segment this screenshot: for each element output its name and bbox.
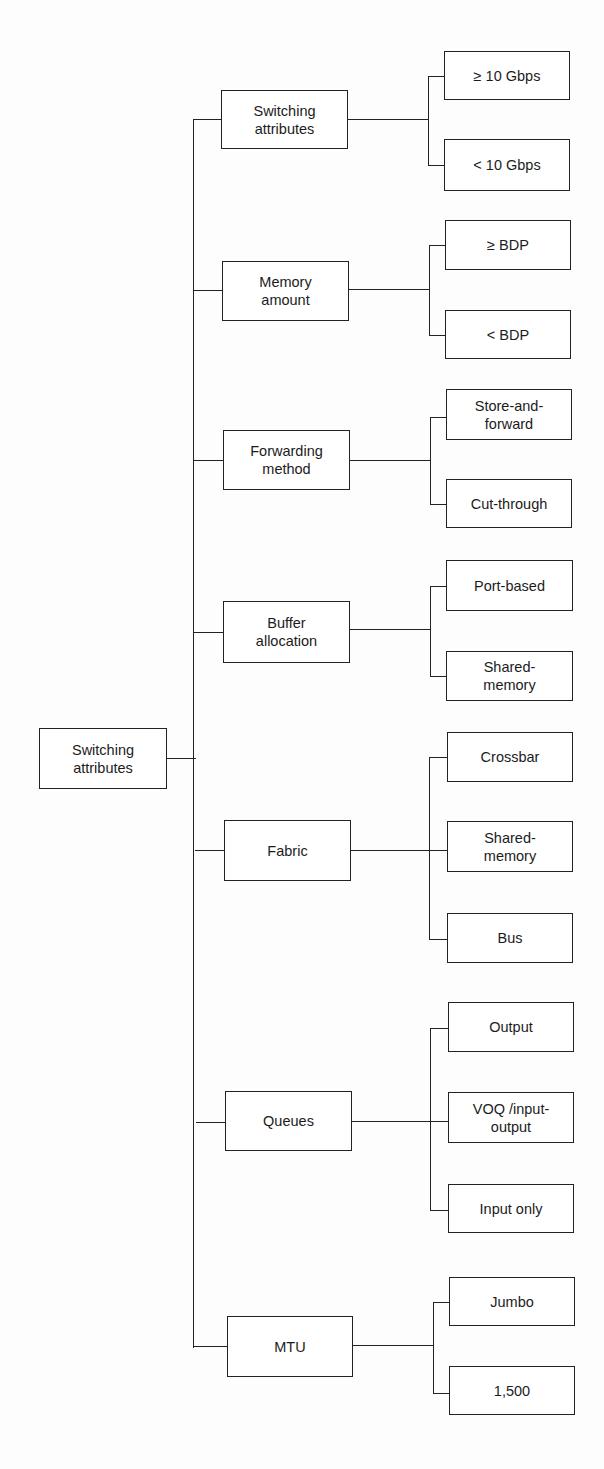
leaf-4-2-connector: [429, 939, 447, 940]
leaf-5-0-connector: [430, 1028, 448, 1029]
spine-to-branch-6: [193, 1346, 227, 1347]
spine-to-branch-2: [193, 460, 223, 461]
leaf-node-shared-memory-buffer: Shared- memory: [446, 651, 573, 701]
leaf-5-1-connector: [430, 1121, 448, 1122]
leaf-node-ge-bdp: ≥ BDP: [445, 220, 571, 270]
leaf-3-1-connector: [430, 676, 446, 677]
branch-6-connector: [353, 1345, 433, 1346]
branch-1-connector: [349, 289, 429, 290]
branch-node-forwarding-method: Forwarding method: [223, 430, 350, 490]
branch-node-memory-amount: Memory amount: [222, 261, 349, 321]
leaf-node-crossbar: Crossbar: [447, 732, 573, 782]
branch-6-bracket: [433, 1302, 434, 1393]
leaf-5-2-connector: [430, 1210, 448, 1211]
leaf-6-1-connector: [433, 1393, 449, 1394]
leaf-node-lt-10gbps: < 10 Gbps: [444, 139, 570, 191]
leaf-node-jumbo: Jumbo: [449, 1277, 575, 1326]
leaf-node-port-based: Port-based: [446, 560, 573, 611]
leaf-node-output: Output: [448, 1002, 574, 1052]
spine-to-branch-3: [194, 632, 223, 633]
branch-5-bracket: [430, 1028, 431, 1210]
leaf-node-input-only: Input only: [448, 1184, 574, 1233]
leaf-2-1-connector: [430, 504, 446, 505]
branch-0-connector: [348, 119, 428, 120]
leaf-2-0-connector: [430, 417, 446, 418]
branch-node-queues: Queues: [225, 1091, 352, 1151]
leaf-1-1-connector: [429, 335, 445, 336]
branch-0-bracket: [428, 76, 429, 165]
branch-3-connector: [350, 629, 430, 630]
spine-to-branch-0: [193, 119, 221, 120]
branch-1-bracket: [429, 245, 430, 335]
leaf-node-cut-through: Cut-through: [446, 479, 572, 528]
leaf-node-bus: Bus: [447, 913, 573, 963]
leaf-node-lt-bdp: < BDP: [445, 310, 571, 359]
leaf-node-1500: 1,500: [449, 1366, 575, 1415]
branch-2-connector: [350, 460, 430, 461]
leaf-0-0-connector: [428, 76, 444, 77]
branch-node-fabric: Fabric: [224, 820, 351, 881]
branch-node-buffer-allocation: Buffer allocation: [223, 601, 350, 663]
leaf-1-0-connector: [429, 245, 445, 246]
diagram-canvas: Switching attributes Switching attribute…: [0, 0, 604, 1469]
leaf-node-ge-10gbps: ≥ 10 Gbps: [444, 51, 570, 100]
branch-node-switching-attributes: Switching attributes: [221, 90, 348, 149]
leaf-node-shared-memory-fabric: Shared- memory: [447, 821, 573, 872]
spine-line: [193, 119, 194, 1348]
root-connector: [167, 758, 196, 759]
leaf-4-0-connector: [429, 757, 447, 758]
branch-node-mtu: MTU: [227, 1316, 353, 1377]
leaf-node-voq-input-output: VOQ /input- output: [448, 1092, 574, 1143]
leaf-0-1-connector: [428, 165, 444, 166]
leaf-3-0-connector: [430, 586, 446, 587]
branch-5-connector: [352, 1121, 430, 1122]
leaf-6-0-connector: [433, 1302, 449, 1303]
branch-4-connector: [351, 850, 429, 851]
spine-to-branch-1: [193, 290, 222, 291]
leaf-node-store-and-forward: Store-and- forward: [446, 389, 572, 440]
spine-to-branch-4: [195, 850, 224, 851]
branch-4-bracket: [429, 757, 430, 939]
spine-to-branch-5: [196, 1122, 225, 1123]
root-node: Switching attributes: [39, 728, 167, 789]
branch-2-bracket: [430, 417, 431, 504]
branch-3-bracket: [430, 586, 431, 676]
leaf-4-1-connector: [429, 850, 447, 851]
